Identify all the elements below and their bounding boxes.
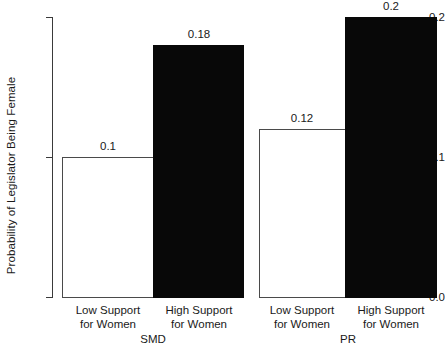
category-label-line2: for Women — [357, 317, 424, 331]
group-label-pr: PR — [340, 333, 356, 345]
bar-chart: Probability of Legislator Being Female 0… — [0, 0, 445, 351]
category-label-line2: for Women — [270, 317, 335, 331]
category-label-pr-high-support: High Support for Women — [357, 303, 424, 331]
category-label-line1: High Support — [357, 304, 424, 316]
category-label-line2: for Women — [76, 317, 141, 331]
group-label-smd: SMD — [140, 333, 166, 345]
bar-value-pr-low-support: 0.12 — [291, 112, 313, 124]
category-label-smd-high-support: High Support for Women — [165, 303, 232, 331]
bar-value-smd-low-support: 0.1 — [100, 140, 116, 152]
bar-smd-low-support — [62, 157, 154, 298]
bar-value-smd-high-support: 0.18 — [188, 28, 210, 40]
category-label-pr-low-support: Low Support for Women — [270, 303, 335, 331]
bar-pr-low-support — [259, 129, 346, 298]
category-label-line1: Low Support — [270, 304, 335, 316]
category-label-line2: for Women — [165, 317, 232, 331]
category-label-smd-low-support: Low Support for Women — [76, 303, 141, 331]
plot-area: 0.1 0.18 0.12 0.2 — [0, 0, 445, 351]
category-label-line1: Low Support — [76, 304, 141, 316]
bar-pr-high-support — [345, 17, 437, 298]
bar-value-pr-high-support: 0.2 — [383, 0, 399, 12]
bar-smd-high-support — [153, 45, 244, 298]
category-label-line1: High Support — [165, 304, 232, 316]
